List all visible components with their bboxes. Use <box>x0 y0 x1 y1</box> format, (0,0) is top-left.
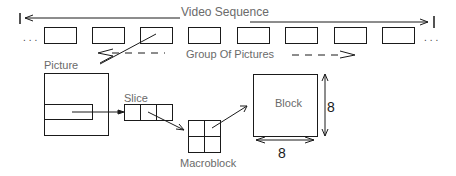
frame-3 <box>141 28 173 44</box>
frame-8 <box>383 28 415 44</box>
ellipsis-right: ... <box>424 33 441 43</box>
ellipsis-left: ... <box>23 33 40 43</box>
macroblock-to-block-arrow <box>212 106 247 128</box>
video-sequence-label: Video Sequence <box>181 6 269 18</box>
frame-5 <box>238 28 270 44</box>
frame-to-picture-arrow <box>100 34 156 64</box>
block-width-dimension <box>256 137 314 143</box>
frame-7 <box>335 28 367 44</box>
video-hierarchy-diagram <box>0 0 456 176</box>
slice-label: Slice <box>124 92 148 104</box>
macroblock-label: Macroblock <box>180 157 236 169</box>
block-label: Block <box>275 97 302 109</box>
block-height-label: 8 <box>327 100 335 114</box>
frame-6 <box>286 28 318 44</box>
frame-2 <box>93 28 125 44</box>
picture-to-slice-arrow <box>72 110 124 114</box>
frame-1 <box>45 28 77 44</box>
block-width-label: 8 <box>278 146 286 160</box>
group-of-pictures-label: Group Of Pictures <box>186 48 274 60</box>
frame-4 <box>189 28 221 44</box>
picture-label: Picture <box>44 59 78 71</box>
gop-frames <box>45 28 415 44</box>
